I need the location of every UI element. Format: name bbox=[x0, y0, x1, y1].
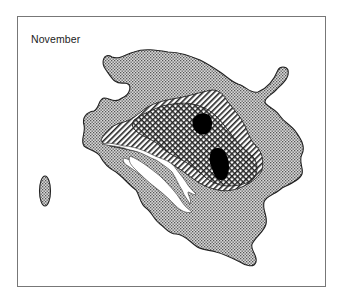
isolated-patch bbox=[40, 176, 51, 206]
map-canvas bbox=[0, 0, 347, 304]
